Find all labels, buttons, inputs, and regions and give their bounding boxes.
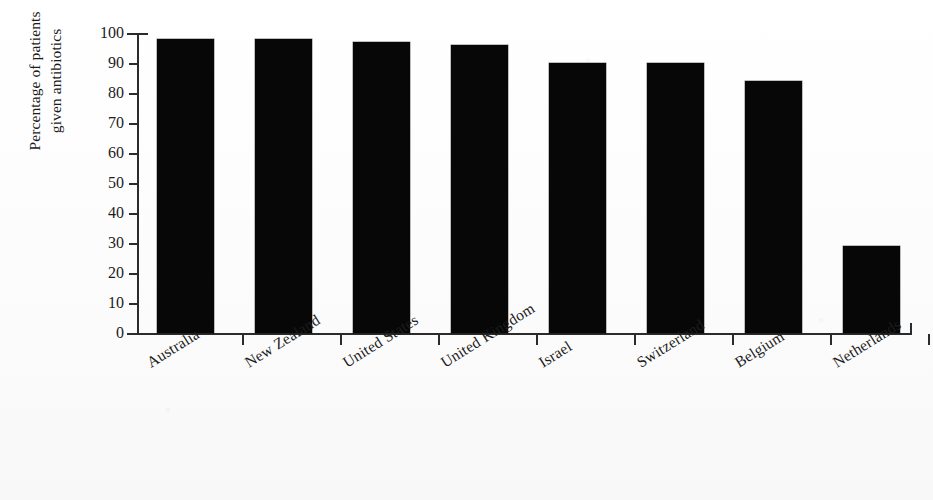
x-axis-category-label: Netherlands xyxy=(830,316,904,370)
x-axis-category-label: United Kingdom xyxy=(438,300,537,370)
x-axis-category-label: United States xyxy=(340,312,421,371)
x-axis-category-label: Israel xyxy=(536,338,574,370)
x-axis-category-label: Switzerland xyxy=(634,317,707,371)
x-axis-category-label: Australia xyxy=(144,326,202,370)
x-axis-category-label: Belgium xyxy=(732,328,787,370)
bar-chart: Percentage of patients given antibiotics… xyxy=(0,0,933,500)
x-axis-category-label: New Zealand xyxy=(242,312,323,370)
x-axis-category-labels: AustraliaNew ZealandUnited StatesUnited … xyxy=(0,0,933,500)
